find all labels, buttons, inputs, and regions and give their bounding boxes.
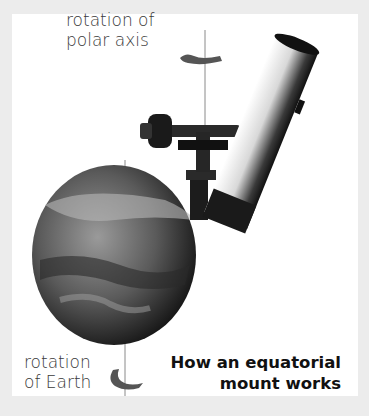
label-earth-line2: of Earth <box>24 372 91 392</box>
earth-globe <box>32 165 196 345</box>
rotation-arrow-earth <box>110 369 143 390</box>
label-earth-rotation: rotation of Earth <box>24 352 91 392</box>
title-line1: How an equatorial <box>171 352 341 373</box>
label-polar-rotation: rotation of polar axis <box>66 10 154 50</box>
rotation-arrow-polar <box>180 54 222 64</box>
label-polar-line1: rotation of <box>66 10 154 30</box>
diagram-title: How an equatorial mount works <box>171 352 341 394</box>
label-earth-line1: rotation <box>24 352 91 372</box>
label-polar-line2: polar axis <box>66 30 154 50</box>
title-line2: mount works <box>171 373 341 394</box>
